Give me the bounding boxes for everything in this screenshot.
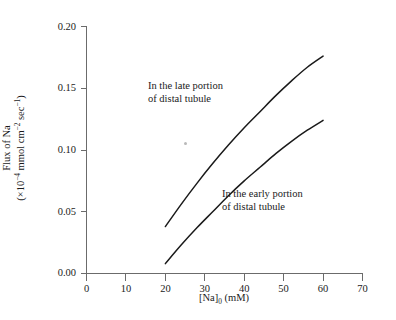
ytick-label-0: 0.00 [46,268,76,279]
x-axis-ticks [87,274,363,281]
ytick-label-2: 0.10 [46,145,76,156]
annotation-late-line2: of distal tubule [148,93,223,106]
annotation-late-line1: In the late portion [148,80,223,93]
y-units-d: ) [15,95,26,99]
annotation-early-portion: In the early portion of distal tubule [222,188,303,214]
annotation-early-line2: of distal tubule [222,201,303,214]
x-axis-title-post: (mM) [222,292,249,303]
chart-figure: 0.00 0.05 0.10 0.15 0.20 0 10 20 30 40 5… [0,0,396,320]
scan-artifact-speck [184,142,187,145]
y-units-exp2: −2 [13,123,22,131]
xtick-label-1: 10 [121,284,132,295]
annotation-early-line1: In the early portion [222,188,303,201]
annotation-late-portion: In the late portion of distal tubule [148,80,223,106]
ytick-label-4: 0.20 [46,21,76,32]
y-units-b: mmol cm [15,130,26,173]
y-axis-title-line2: (×10−4 mmol cm−2 sec−1) [14,38,28,258]
xtick-label-2: 20 [160,284,171,295]
y-units-exp1: −4 [13,173,22,181]
ytick-label-1: 0.05 [46,207,76,218]
y-units-a: (×10 [15,181,26,201]
x-axis-title: [Na]0 (mM) [199,292,249,303]
y-units-c: sec [15,107,26,123]
xtick-label-6: 60 [318,284,329,295]
ytick-label-3: 0.15 [46,83,76,94]
y-axis-title: Flux of Na (×10−4 mmol cm−2 sec−1) [0,38,28,258]
xtick-label-5: 50 [278,284,289,295]
y-axis-ticks [81,27,87,274]
y-axis-title-line1: Flux of Na [0,38,14,258]
y-units-exp3: −1 [13,99,22,107]
x-axis-title-pre: [Na] [199,292,218,303]
xtick-label-0: 0 [84,284,89,295]
xtick-label-7: 70 [357,284,368,295]
